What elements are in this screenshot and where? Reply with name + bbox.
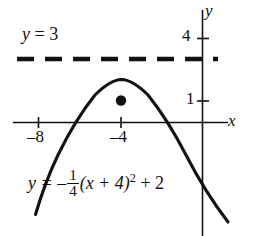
parabola-equation-label: y = –14(x + 4)2 + 2 xyxy=(28,168,164,200)
x-tick-label-neg4: –4 xyxy=(110,128,127,145)
marked-point-dot xyxy=(116,95,126,105)
equation-constant: + 2 xyxy=(136,173,164,193)
equation-numerator: 1 xyxy=(67,168,79,183)
y-axis-label: y xyxy=(205,2,213,19)
y-tick-label-1: 1 xyxy=(186,90,195,107)
y-tick-label-4: 4 xyxy=(182,27,191,44)
equation-fraction: 14 xyxy=(67,168,79,200)
x-axis-label: x xyxy=(228,112,236,129)
equation-lead: y = – xyxy=(28,173,66,193)
line-equation-label: y = 3 xyxy=(22,25,58,43)
line-equation-rest: = 3 xyxy=(30,24,58,44)
equation-tail: (x + 4) xyxy=(80,173,130,193)
line-equation-variable: y xyxy=(22,24,30,44)
x-tick-label-neg8: –8 xyxy=(27,128,44,145)
graph-figure: y = 3 –8 –4 4 1 y x y = –14(x + 4)2 + 2 xyxy=(0,0,254,236)
equation-denominator: 4 xyxy=(67,183,79,199)
